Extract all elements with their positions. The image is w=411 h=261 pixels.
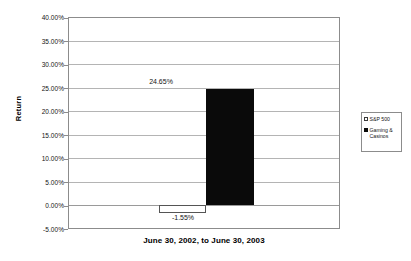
gridline-35	[69, 41, 339, 42]
data-label-sp500: -1.55%	[148, 214, 218, 222]
plot-area	[68, 17, 340, 229]
y-axis-title: Return	[14, 79, 23, 139]
y-tick-label-neg5: -5.00%	[4, 226, 64, 233]
y-tick-label-0: 0.00%	[4, 202, 64, 209]
data-label-gaming-casinos: 24.65%	[126, 78, 196, 86]
gridline-20	[69, 111, 339, 112]
bar-chart: 40.00% 35.00% 30.00% 25.00% 20.00% 15.00…	[0, 0, 411, 261]
y-tick-label-5: 5.00%	[4, 179, 64, 186]
gridline-25	[69, 88, 339, 89]
gridline-5	[69, 182, 339, 183]
y-tick-label-10: 10.00%	[4, 155, 64, 162]
y-tick-label-40: 40.00%	[4, 14, 64, 21]
y-tick-label-35: 35.00%	[4, 38, 64, 45]
y-tick-label-30: 30.00%	[4, 61, 64, 68]
y-tick-mark-neg5	[64, 229, 68, 230]
legend-label-sp500: S&P 500	[370, 116, 391, 122]
legend-item-gaming-casinos: Gaming & Casinos	[364, 127, 399, 139]
legend-swatch-hollow-square-icon	[364, 117, 368, 121]
legend-item-sp500: S&P 500	[364, 116, 399, 122]
bar-sp500	[159, 205, 206, 213]
gridline-10	[69, 158, 339, 159]
bar-gaming-casinos	[206, 89, 254, 205]
gridline-30	[69, 64, 339, 65]
gridline-15	[69, 135, 339, 136]
legend-swatch-filled-square-icon	[364, 128, 368, 132]
chart-legend: S&P 500 Gaming & Casinos	[361, 112, 402, 152]
x-axis-title: June 30, 2002, to June 30, 2003	[68, 236, 340, 245]
legend-label-gaming-casinos: Gaming & Casinos	[370, 127, 400, 139]
